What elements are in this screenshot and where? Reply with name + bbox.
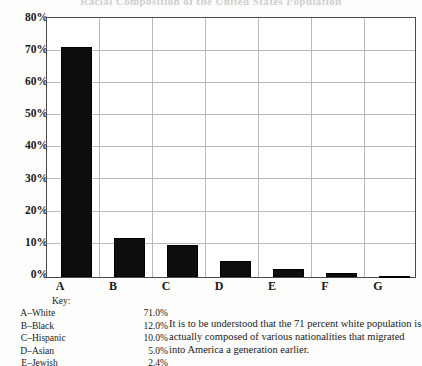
gridline-vertical-5 xyxy=(311,18,312,277)
gridline-50 xyxy=(47,114,415,115)
key-symbol-a: A– xyxy=(0,308,32,321)
y-axis-label-20: 20% xyxy=(4,205,48,216)
gridline-vertical-2 xyxy=(152,18,153,277)
key-label-c: Hispanic xyxy=(32,333,106,346)
x-axis-label-e: E xyxy=(252,279,292,294)
key-label-a: White xyxy=(32,308,106,321)
bar-d xyxy=(220,261,251,277)
key-row-d: D– Asian 5.0% xyxy=(0,346,168,359)
explanatory-note: It is to be understood that the 71 perce… xyxy=(169,317,422,366)
bar-a xyxy=(61,47,92,277)
chart-title-clipped: Racial Composition of the United States … xyxy=(0,0,422,7)
chart-page: Racial Composition of the United States … xyxy=(0,0,422,366)
key-row-a: A– White 71.0% xyxy=(0,308,168,321)
bar-f xyxy=(326,273,357,277)
key-value-d: 5.0% xyxy=(106,346,168,359)
y-axis-label-60: 60% xyxy=(4,76,48,87)
gridline-30 xyxy=(47,178,415,179)
bar-c xyxy=(167,245,198,277)
key-row-b: B– Black 12.0% xyxy=(0,321,168,334)
key-row-e: E– Jewish 2.4% xyxy=(0,358,168,366)
gridline-vertical-1 xyxy=(99,18,100,277)
gridline-20 xyxy=(47,211,415,212)
gridline-40 xyxy=(47,146,415,147)
key-value-c: 10.0% xyxy=(106,333,168,346)
key-value-e: 2.4% xyxy=(106,358,168,366)
key-table: A– White 71.0% B– Black 12.0% C– Hispani… xyxy=(0,308,168,366)
x-axis-label-d: D xyxy=(199,279,239,294)
y-axis-label-70: 70% xyxy=(4,44,48,55)
key-value-a: 71.0% xyxy=(106,308,168,321)
gridline-vertical-3 xyxy=(205,18,206,277)
key-symbol-e: E– xyxy=(0,358,32,366)
gridline-vertical-4 xyxy=(258,18,259,277)
y-axis-label-50: 50% xyxy=(4,108,48,119)
y-axis-label-80: 80% xyxy=(4,12,48,23)
key-heading: Key: xyxy=(52,296,70,306)
key-label-b: Black xyxy=(32,321,106,334)
chart-title-text: Racial Composition of the United States … xyxy=(0,0,422,7)
key-label-e: Jewish xyxy=(32,358,106,366)
y-axis-label-40: 40% xyxy=(4,140,48,151)
bar-e xyxy=(273,269,304,277)
x-axis-label-g: G xyxy=(358,279,398,294)
chart-key: Key: A– White 71.0% B– Black 12.0% C– Hi… xyxy=(0,291,170,366)
key-row-c: C– Hispanic 10.0% xyxy=(0,333,168,346)
gridline-60 xyxy=(47,82,415,83)
key-symbol-c: C– xyxy=(0,333,32,346)
x-axis-label-f: F xyxy=(305,279,345,294)
key-symbol-b: B– xyxy=(0,321,32,334)
bar-g xyxy=(379,276,410,278)
y-axis-label-10: 10% xyxy=(4,237,48,248)
key-value-b: 12.0% xyxy=(106,321,168,334)
bar-chart: 80% 70% 60% 50% 40% 30% 20% 10% 0% xyxy=(0,7,422,290)
key-label-d: Asian xyxy=(32,346,106,359)
plot-area xyxy=(46,17,416,278)
y-axis-label-30: 30% xyxy=(4,173,48,184)
gridline-10 xyxy=(47,243,415,244)
gridline-vertical-6 xyxy=(364,18,365,277)
key-symbol-d: D– xyxy=(0,346,32,359)
gridline-70 xyxy=(47,50,415,51)
bar-b xyxy=(114,238,145,277)
